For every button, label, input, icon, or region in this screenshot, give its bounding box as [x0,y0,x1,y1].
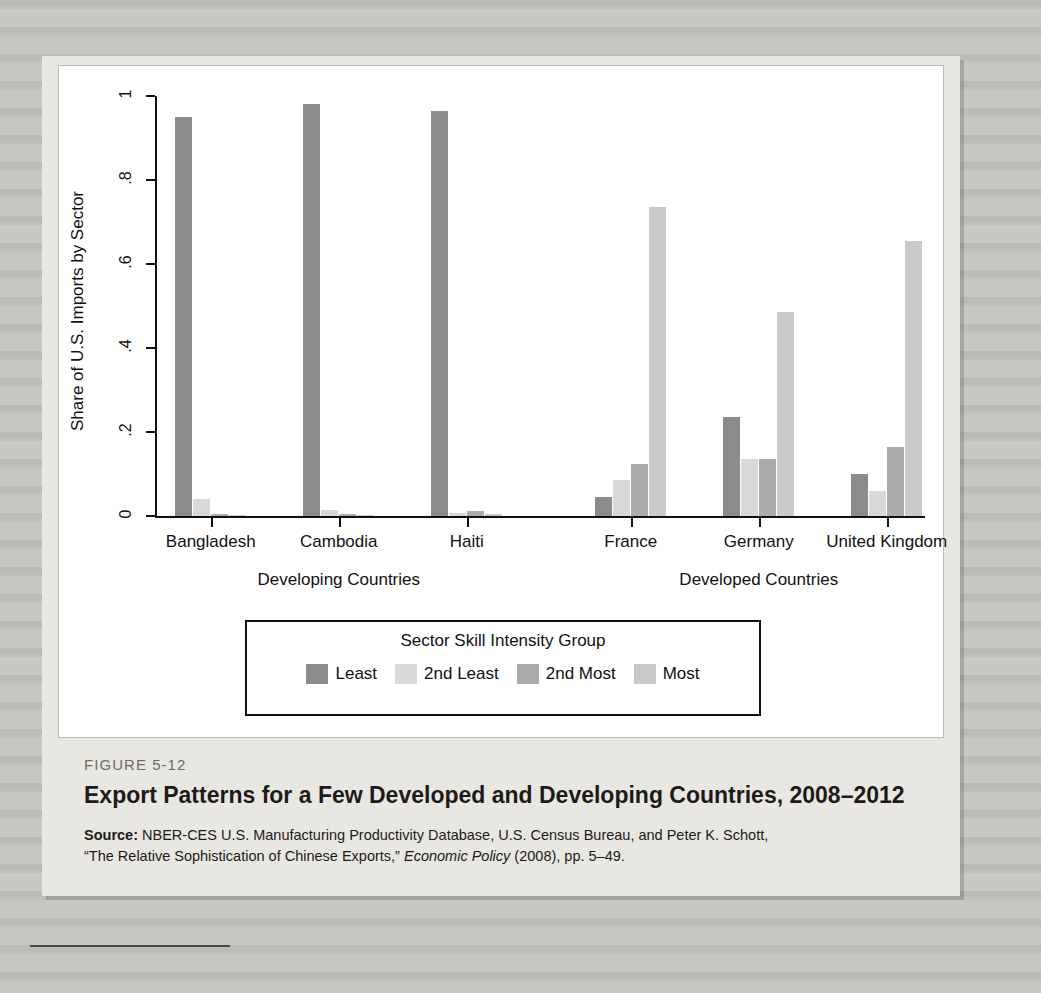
legend-label: Most [663,664,700,684]
y-tick [146,431,155,433]
x-tick [631,518,633,527]
y-tick-label-text: .2 [117,413,135,447]
legend-item: 2nd Least [395,664,499,684]
footnote-rule [30,945,230,947]
figure-card: Share of U.S. Imports by Sector 0.2.4.6.… [42,56,960,896]
x-tick [211,518,213,527]
y-tick [146,263,155,265]
chart-legend: Sector Skill Intensity Group Least2nd Le… [245,620,761,716]
source-label: Source: [84,827,138,843]
y-tick-label-text: 1 [117,77,135,111]
legend-swatch [306,664,328,684]
y-tick [146,515,155,517]
legend-label: Least [335,664,377,684]
bar [431,111,448,516]
bar [723,417,740,516]
legend-swatch [395,664,417,684]
x-category-label: Germany [724,532,794,552]
y-tick-label: 1 [109,85,143,103]
bar [303,104,320,516]
x-group-label: Developing Countries [257,570,420,590]
bar-chart: Share of U.S. Imports by Sector 0.2.4.6.… [59,66,943,737]
bar [649,207,666,516]
bar [869,491,886,516]
source-line-2a: “The Relative Sophistication of Chinese … [84,848,404,864]
y-tick-label: .4 [109,337,143,355]
y-tick-label: .8 [109,169,143,187]
axes: 0.2.4.6.81 BangladeshCambodiaHaitiFrance… [115,96,925,516]
legend-item: 2nd Most [517,664,616,684]
bar [175,117,192,516]
x-tick [339,518,341,527]
source-line-1: NBER-CES U.S. Manufacturing Productivity… [138,827,768,843]
figure-source: Source: NBER-CES U.S. Manufacturing Prod… [84,825,930,867]
bar [887,447,904,516]
x-axis-line [155,516,925,518]
bar [777,312,794,516]
bar [485,514,502,516]
x-category-label: Haiti [450,532,484,552]
y-tick [146,179,155,181]
bar [851,474,868,516]
x-tick [887,518,889,527]
x-tick [759,518,761,527]
bar [741,459,758,516]
x-category-label: Cambodia [300,532,378,552]
x-category-label: Bangladesh [166,532,256,552]
bar [339,514,356,516]
y-tick [146,347,155,349]
y-axis-title-text: Share of U.S. Imports by Sector [68,191,88,431]
y-tick [146,95,155,97]
legend-item: Most [634,664,700,684]
y-tick-label-text: .6 [117,245,135,279]
y-tick-label-text: 0 [117,497,135,531]
y-tick-label: .6 [109,253,143,271]
source-journal: Economic Policy [404,848,510,864]
bar [759,459,776,516]
y-axis-title: Share of U.S. Imports by Sector [63,116,93,506]
bar [449,513,466,516]
legend-label: 2nd Most [546,664,616,684]
x-tick [467,518,469,527]
y-tick-label: .2 [109,421,143,439]
bar [193,499,210,516]
y-tick-label-text: .4 [117,329,135,363]
y-tick-label-text: .8 [117,161,135,195]
bar [613,480,630,516]
y-tick-label: 0 [109,505,143,523]
legend-title: Sector Skill Intensity Group [247,631,759,651]
bar [229,515,246,516]
plot-area [157,96,925,516]
x-group-label: Developed Countries [679,570,838,590]
legend-label: 2nd Least [424,664,499,684]
bar [631,464,648,517]
legend-swatch [517,664,539,684]
figure-title: Export Patterns for a Few Developed and … [84,782,930,809]
bar [467,511,484,516]
legend-items: Least2nd Least2nd MostMost [247,664,759,684]
chart-panel: Share of U.S. Imports by Sector 0.2.4.6.… [58,65,944,738]
x-category-label: France [604,532,657,552]
figure-caption: FIGURE 5-12 Export Patterns for a Few De… [84,756,930,867]
legend-swatch [634,664,656,684]
bar [357,515,374,516]
x-category-label: United Kingdom [826,532,947,552]
legend-item: Least [306,664,377,684]
bar [595,497,612,516]
figure-number: FIGURE 5-12 [84,756,930,773]
bar [321,510,338,516]
bar [905,241,922,516]
source-line-2c: (2008), pp. 5–49. [510,848,624,864]
bar [211,514,228,516]
